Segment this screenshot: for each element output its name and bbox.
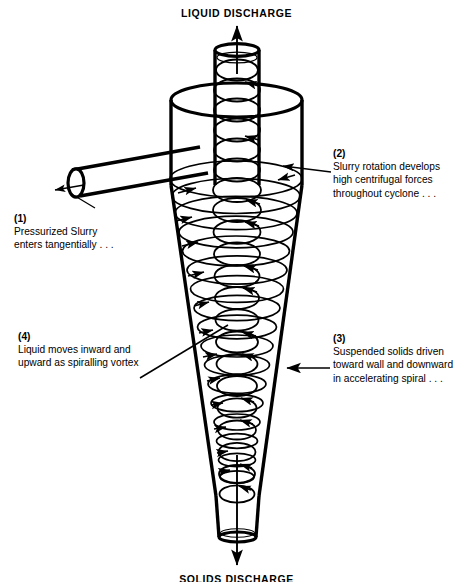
callout-2-line2: high centrifugal forces [333,173,440,186]
hydrocyclone-diagram [0,0,473,582]
callout-3-number: (3) [333,332,453,345]
callout-3-line3: in accelerating spiral . . . [333,372,453,385]
callout-4-line2: upward as spiralling vortex [18,356,139,369]
callout-1-number: (1) [14,212,114,225]
callout-2: (2) Slurry rotation develops high centri… [333,147,440,200]
liquid-discharge-label: LIQUID DISCHARGE [0,7,473,19]
callout-2-number: (2) [333,147,440,160]
callout-1: (1) Pressurized Slurry enters tangential… [14,212,114,252]
solids-discharge-label: SOLIDS DISCHARGE [0,574,473,582]
callout-2-line1: Slurry rotation develops [333,160,440,173]
callout-3-line1: Suspended solids driven [333,345,453,358]
callout-1-line1: Pressurized Slurry [14,225,114,238]
callout-1-line2: enters tangentially . . . [14,238,114,251]
callout-4-line1: Liquid moves inward and [18,343,139,356]
callout-2-line3: throughout cyclone . . . [333,187,440,200]
callout-4-number: (4) [18,330,139,343]
callout-4: (4) Liquid moves inward and upward as sp… [18,330,139,370]
callout-3: (3) Suspended solids driven toward wall … [333,332,453,385]
callout-3-line2: toward wall and downward [333,358,453,371]
